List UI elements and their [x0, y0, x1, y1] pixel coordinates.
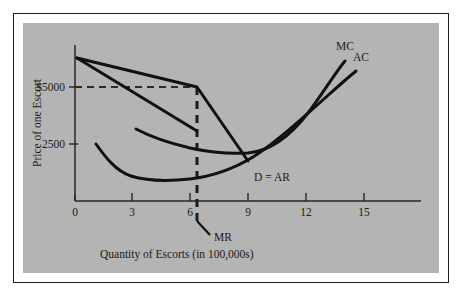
mc-curve-label: MC	[336, 40, 354, 52]
x-axis-ticks	[75, 193, 364, 201]
y-axis-title: Price of one Escort	[31, 78, 43, 167]
y-axis-ticks	[69, 87, 78, 144]
figure-frame: 0 3 6 9 12 15 $5000 2500 Price of one Es…	[13, 13, 449, 283]
x-tick-label-9: 9	[245, 206, 251, 218]
y-tick-label-2500: 2500	[42, 138, 65, 150]
chart-plot-surface: 0 3 6 9 12 15 $5000 2500 Price of one Es…	[23, 23, 439, 273]
x-tick-label-0: 0	[72, 206, 78, 218]
demand-curve-label: D = AR	[254, 171, 290, 183]
ac-curve-label: AC	[353, 51, 369, 63]
chart-axes	[75, 45, 421, 201]
economics-chart: 0 3 6 9 12 15 $5000 2500 Price of one Es…	[23, 23, 439, 273]
x-tick-label-15: 15	[358, 206, 370, 218]
x-axis-title: Quantity of Escorts (in 100,000s)	[100, 248, 254, 261]
x-axis-tick-labels: 0 3 6 9 12 15	[72, 206, 370, 218]
marginal-revenue-curve	[77, 58, 197, 131]
x-tick-label-6: 6	[187, 206, 193, 218]
x-tick-label-12: 12	[300, 206, 312, 218]
x-tick-label-3: 3	[129, 206, 135, 218]
mr-curve-label: MR	[214, 231, 232, 243]
mr-pointer-line	[197, 221, 210, 235]
